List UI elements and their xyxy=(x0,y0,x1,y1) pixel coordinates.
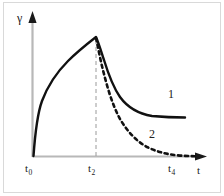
chart-figure: γ t t0 t2 t4 1 2 xyxy=(0,0,224,196)
x-axis-label: t xyxy=(197,165,200,176)
x-tick-base-t2: t xyxy=(88,162,91,174)
x-tick-label-t4: t4 xyxy=(168,163,175,174)
curve-label-2: 2 xyxy=(149,128,155,140)
x-tick-label-t2: t2 xyxy=(88,163,95,174)
x-tick-base-t0: t xyxy=(25,162,28,174)
x-tick-sub-t0: 0 xyxy=(29,168,33,177)
x-tick-label-t0: t0 xyxy=(25,163,32,174)
y-axis-label: γ xyxy=(17,12,22,24)
y-axis-arrow-icon xyxy=(28,11,36,23)
x-axis-arrow-icon xyxy=(195,152,207,160)
chart-plot-area xyxy=(0,0,224,196)
x-tick-sub-t4: 4 xyxy=(172,168,176,177)
x-tick-base-t4: t xyxy=(168,162,171,174)
curve-label-1: 1 xyxy=(168,88,174,100)
x-tick-sub-t2: 2 xyxy=(92,168,96,177)
curve-2-path xyxy=(96,38,197,156)
curve-1-path xyxy=(34,37,186,156)
